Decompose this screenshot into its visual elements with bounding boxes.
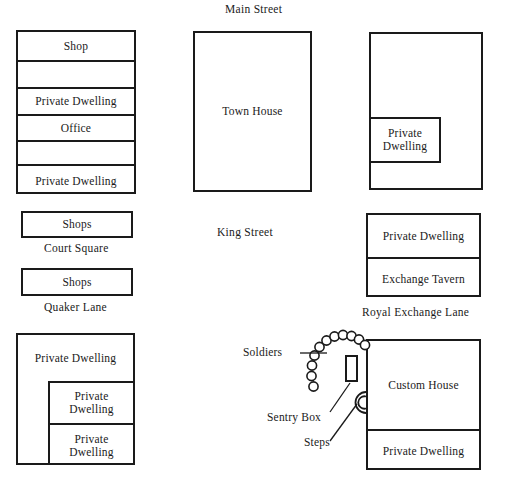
leader-line-steps — [330, 404, 357, 441]
court-square-shops-building: Shops — [21, 211, 133, 238]
boston-massacre-site-plan: Main Street King Street Court Square Qua… — [0, 0, 513, 493]
building-cell-private-dwelling-exchange: Private Dwelling — [368, 215, 479, 257]
building-cell-custom-house: Custom House — [368, 341, 479, 429]
building-cell-private-dwelling-inner-1: Private Dwelling — [50, 383, 133, 423]
building-cell-blank-2 — [18, 140, 134, 164]
street-label-court-square: Court Square — [44, 242, 109, 254]
soldier-marker — [347, 331, 356, 340]
building-cell-private-dwelling-outer: Private Dwelling — [18, 335, 133, 381]
steps-label: Steps — [304, 436, 330, 448]
soldier-marker — [330, 332, 339, 341]
step-arc-inner — [358, 396, 366, 408]
northeast-building-private-dwelling: Private Dwelling — [369, 117, 441, 163]
town-house-building: Town House — [193, 31, 312, 192]
street-label-king-street: King Street — [217, 226, 273, 238]
building-cell-shop: Shop — [18, 32, 134, 60]
northwest-building-row: Shop Private Dwelling Office Private Dwe… — [16, 30, 136, 194]
sentry-box-label: Sentry Box — [267, 411, 321, 423]
northeast-building — [369, 32, 483, 190]
exchange-block: Private Dwelling Exchange Tavern — [366, 213, 481, 297]
soldier-marker — [307, 361, 316, 370]
street-label-royal-exchange-lane: Royal Exchange Lane — [362, 306, 469, 318]
step-arc-outer — [356, 392, 367, 413]
building-cell-blank-1 — [18, 60, 134, 87]
quaker-lane-shops-building: Shops — [21, 268, 133, 296]
leader-line-sentry-box — [330, 383, 350, 412]
soldier-marker — [307, 371, 316, 380]
street-label-main-street: Main Street — [225, 3, 282, 15]
soldier-marker — [309, 382, 318, 391]
street-label-quaker-lane: Quaker Lane — [44, 301, 107, 313]
building-cell-private-dwelling-2: Private Dwelling — [18, 164, 134, 196]
soldiers-label: Soldiers — [243, 346, 282, 358]
soldier-marker — [310, 351, 319, 360]
steps — [356, 392, 367, 413]
soldier-marker — [354, 335, 363, 344]
building-cell-private-dwelling-custom: Private Dwelling — [368, 429, 479, 472]
custom-house-block: Custom House Private Dwelling — [366, 339, 481, 470]
building-cell-private-dwelling-northeast: Private Dwelling — [371, 119, 439, 161]
southwest-building-inner: Private Dwelling Private Dwelling — [48, 381, 135, 465]
building-cell-exchange-tavern: Exchange Tavern — [368, 257, 479, 299]
building-cell-town-house: Town House — [195, 33, 310, 190]
soldier-marker — [338, 330, 347, 339]
soldier-marker — [322, 336, 331, 345]
soldier-markers — [307, 330, 370, 391]
sentry-box — [345, 355, 358, 382]
building-cell-private-dwelling-1: Private Dwelling — [18, 87, 134, 114]
building-cell-shops-2: Shops — [23, 270, 131, 294]
building-cell-private-dwelling-inner-2: Private Dwelling — [50, 423, 133, 467]
building-cell-office: Office — [18, 114, 134, 140]
building-cell-shops-1: Shops — [23, 213, 131, 236]
soldier-marker — [315, 342, 324, 351]
